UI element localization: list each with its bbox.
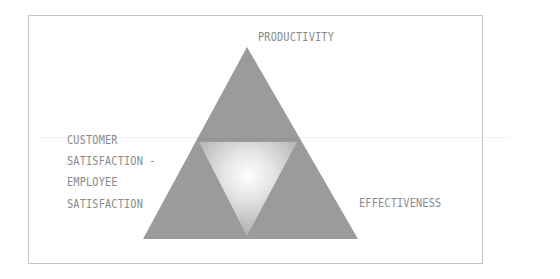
label-effectiveness: EFFECTIVENESS xyxy=(359,192,441,213)
label-customer: CUSTOMER xyxy=(67,129,118,150)
label-employee: EMPLOYEE xyxy=(67,171,118,192)
label-satisfaction: SATISFACTION xyxy=(67,193,143,214)
label-productivity: PRODUCTIVITY xyxy=(258,26,334,47)
label-satisfaction-dash: SATISFACTION - xyxy=(67,150,156,171)
